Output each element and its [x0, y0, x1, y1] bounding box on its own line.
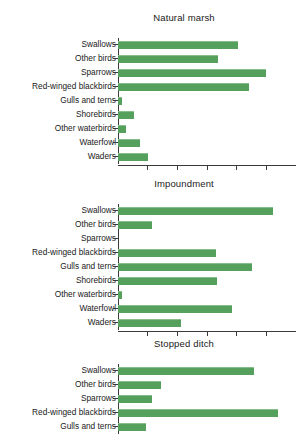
- bar-track: [118, 409, 296, 417]
- category-label: Sparrows: [0, 393, 116, 404]
- x-axis: [0, 165, 306, 171]
- bar-track: [118, 83, 296, 91]
- bar-track: [118, 263, 296, 271]
- bar-row: Gulls and terns: [0, 94, 306, 108]
- bar-row: Swallows: [0, 364, 306, 378]
- bar-row: Red-winged blackbirds: [0, 406, 306, 420]
- bar: [118, 221, 152, 229]
- category-label: Gulls and terns: [0, 421, 116, 432]
- category-label: Gulls and terns: [0, 95, 116, 106]
- category-label: Other waterbirds: [0, 123, 116, 134]
- bar: [118, 291, 122, 299]
- bar-track: [118, 221, 296, 229]
- x-tick: [236, 332, 237, 336]
- x-tick: [177, 166, 178, 170]
- category-label: Other birds: [0, 219, 116, 230]
- bar-row: Other birds: [0, 218, 306, 232]
- category-label: Sparrows: [0, 233, 116, 244]
- bar-track: [118, 97, 296, 105]
- bar-row: Gulls and terns: [0, 420, 306, 434]
- bar: [118, 423, 146, 431]
- bar-track: [118, 277, 296, 285]
- bar-rows: Swallows Other birds Sparrows: [0, 364, 306, 434]
- panel-title: Impoundment: [0, 178, 306, 189]
- bar-row: Sparrows: [0, 392, 306, 406]
- bar-track: [118, 153, 296, 161]
- bar-track: [118, 207, 296, 215]
- x-tick: [147, 332, 148, 336]
- bar-row: Waterfowl: [0, 302, 306, 316]
- category-label: Swallows: [0, 365, 116, 376]
- bar: [118, 41, 238, 49]
- bar-row: Gulls and terns: [0, 260, 306, 274]
- bar-row: Other birds: [0, 378, 306, 392]
- category-label: Waders: [0, 317, 116, 328]
- x-tick: [266, 166, 267, 170]
- category-label: Shorebirds: [0, 275, 116, 286]
- bar: [118, 277, 217, 285]
- panel-title: Natural marsh: [0, 12, 306, 23]
- bar: [118, 125, 126, 133]
- category-label: Other birds: [0, 53, 116, 64]
- bar-row: Shorebirds: [0, 108, 306, 122]
- bar-track: [118, 423, 296, 431]
- category-label: Red-winged blackbirds: [0, 407, 116, 418]
- bar: [118, 263, 252, 271]
- category-label: Swallows: [0, 205, 116, 216]
- bar: [118, 319, 181, 327]
- bar: [118, 69, 266, 77]
- category-label: Shorebirds: [0, 109, 116, 120]
- bar: [118, 139, 140, 147]
- category-label: Swallows: [0, 39, 116, 50]
- bar-row: Waders: [0, 316, 306, 330]
- bar-row: Red-winged blackbirds: [0, 80, 306, 94]
- bar-track: [118, 69, 296, 77]
- x-tick: [147, 166, 148, 170]
- bar: [118, 55, 218, 63]
- bar: [118, 249, 216, 257]
- category-label: Red-winged blackbirds: [0, 81, 116, 92]
- category-label: Gulls and terns: [0, 261, 116, 272]
- bar: [118, 111, 134, 119]
- bar-row: Sparrows: [0, 66, 306, 80]
- bar: [118, 409, 278, 417]
- bar-rows: Swallows Other birds Sparrows: [0, 204, 306, 330]
- bar-track: [118, 111, 296, 119]
- x-tick: [207, 166, 208, 170]
- x-tick: [177, 332, 178, 336]
- category-label: Waterfowl: [0, 303, 116, 314]
- bar-row: Other waterbirds: [0, 122, 306, 136]
- category-label: Other waterbirds: [0, 289, 116, 300]
- bar-row: Red-winged blackbirds: [0, 246, 306, 260]
- category-label: Red-winged blackbirds: [0, 247, 116, 258]
- x-axis: [0, 331, 306, 337]
- bar-track: [118, 125, 296, 133]
- bar: [118, 395, 152, 403]
- category-label: Other birds: [0, 379, 116, 390]
- bar-row: Waterfowl: [0, 136, 306, 150]
- bar-row: Other waterbirds: [0, 288, 306, 302]
- bar-track: [118, 305, 296, 313]
- bar-track: [118, 41, 296, 49]
- bar-track: [118, 249, 296, 257]
- bar-track: [118, 55, 296, 63]
- bar-track: [118, 319, 296, 327]
- bar-track: [118, 381, 296, 389]
- x-tick: [266, 332, 267, 336]
- bar-rows: Swallows Other birds Sparrows: [0, 38, 306, 164]
- bar: [118, 97, 122, 105]
- category-label: Waterfowl: [0, 137, 116, 148]
- panel-title: Stopped ditch: [0, 338, 306, 349]
- bar: [118, 381, 161, 389]
- x-tick: [207, 332, 208, 336]
- x-tick: [236, 166, 237, 170]
- bar-track: [118, 291, 296, 299]
- bar-track: [118, 139, 296, 147]
- bar-row: Swallows: [0, 38, 306, 52]
- bar-track: [118, 235, 296, 243]
- bar: [118, 305, 232, 313]
- bar: [118, 153, 148, 161]
- bar-track: [118, 395, 296, 403]
- category-label: Sparrows: [0, 67, 116, 78]
